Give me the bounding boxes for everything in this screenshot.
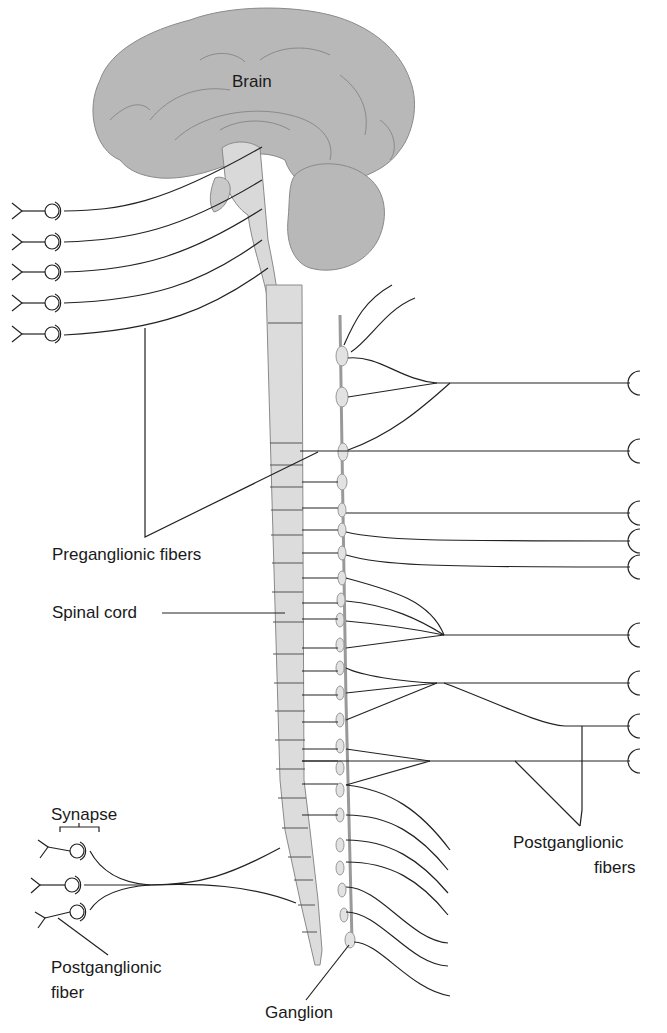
label-postganglionic-fiber-2: fiber xyxy=(51,983,84,1003)
sacral-targets xyxy=(31,840,86,928)
right-targets xyxy=(628,371,640,773)
nervous-system-diagram xyxy=(0,0,667,1033)
label-postganglionic-fibers-2: fibers xyxy=(594,858,636,878)
label-ganglion: Ganglion xyxy=(265,1003,333,1023)
spinal-cord xyxy=(266,280,322,1020)
label-spinal-cord: Spinal cord xyxy=(52,603,137,623)
label-preganglionic-fibers: Preganglionic fibers xyxy=(52,545,201,565)
label-postganglionic-fiber-1: Postganglionic xyxy=(51,958,162,978)
brain xyxy=(93,8,415,300)
label-brain: Brain xyxy=(232,72,272,92)
sympathetic-chain xyxy=(336,315,355,948)
cranial-targets xyxy=(12,202,61,343)
label-postganglionic-fibers-1: Postganglionic xyxy=(513,833,624,853)
label-synapse: Synapse xyxy=(51,805,117,825)
